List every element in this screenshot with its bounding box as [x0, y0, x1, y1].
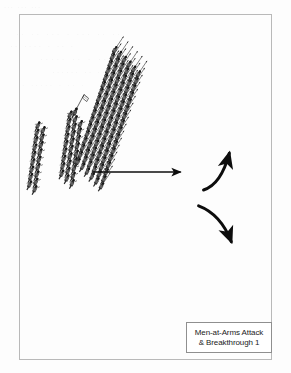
arrow-breakthrough-upper	[204, 153, 230, 190]
unit-men-at-arms-block-left	[20, 120, 67, 196]
ghost-text-line: ... ... ...	[4, 1, 41, 10]
caption-line-1: Men-at-Arms Attack	[195, 328, 263, 338]
tactical-diagram-canvas	[20, 15, 271, 359]
arrow-breakthrough-lower	[199, 206, 232, 242]
page-surface: ... ... ... ·· ·· ··· · ··· ·· ·· ·· ···…	[0, 0, 291, 373]
diagram-frame: Men-at-Arms Attack & Breakthrough 1	[19, 14, 272, 360]
caption-line-2: & Breakthrough 1	[199, 338, 260, 348]
standard-bearer	[70, 93, 89, 120]
caption-box: Men-at-Arms Attack & Breakthrough 1	[186, 322, 272, 353]
